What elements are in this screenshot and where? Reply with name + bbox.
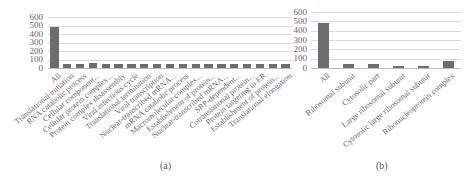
plot-area-b [311, 12, 461, 68]
x-axis-line [311, 68, 461, 69]
y-tick-label: 400 [285, 26, 307, 35]
y-tick-label: 0 [285, 64, 307, 73]
y-tick-label: 100 [285, 54, 307, 63]
gridline [311, 49, 461, 50]
bar [368, 64, 379, 68]
bar [343, 64, 354, 68]
gridline [311, 59, 461, 60]
bar [418, 66, 429, 68]
chart-b: 0100200300400500600 AllRibosomal subunit… [0, 0, 464, 177]
bar [393, 66, 404, 68]
y-tick-label: 500 [285, 17, 307, 26]
y-tick-label: 200 [285, 45, 307, 54]
gridline [311, 31, 461, 32]
y-tick-label: 600 [285, 8, 307, 17]
y-tick-label: 300 [285, 36, 307, 45]
gridline [311, 21, 461, 22]
bar [443, 61, 454, 68]
bar [318, 23, 329, 68]
x-tick-label: All [318, 72, 331, 85]
gridline [311, 40, 461, 41]
gridline [311, 12, 461, 13]
caption-b: (b) [376, 160, 388, 171]
